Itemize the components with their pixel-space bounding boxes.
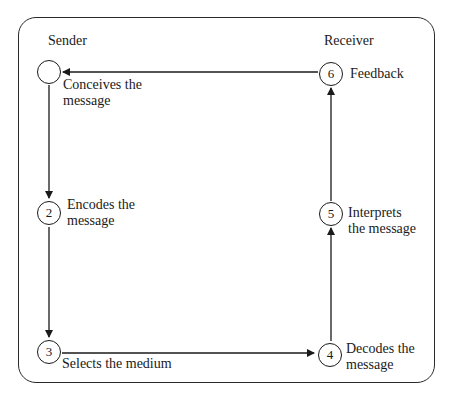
- node-6-circle: 6: [319, 62, 343, 86]
- node-4-label-line1: Decodes the: [346, 341, 415, 357]
- node-2-circle: 2: [37, 201, 61, 225]
- node-4-label-line2: message: [346, 357, 415, 373]
- node-4-label: Decodes the message: [346, 341, 415, 373]
- node-6-label-line1: Feedback: [350, 66, 404, 82]
- node-1-label-line1: Conceives the: [63, 77, 142, 93]
- node-3-label-line1: Selects the medium: [62, 356, 172, 372]
- node-1-circle: [37, 60, 61, 84]
- node-2-label-line1: Encodes the: [67, 197, 135, 213]
- node-1-label: Conceives the message: [63, 77, 142, 109]
- receiver-heading: Receiver: [324, 33, 374, 49]
- node-3-circle: 3: [37, 340, 61, 364]
- node-5-circle: 5: [319, 202, 343, 226]
- node-1-label-line2: message: [63, 93, 142, 109]
- node-4-circle: 4: [318, 343, 342, 367]
- node-5-label: Interprets the message: [348, 205, 416, 237]
- node-3-label: Selects the medium: [62, 356, 172, 372]
- sender-heading: Sender: [48, 33, 87, 49]
- node-5-label-line1: Interprets: [348, 205, 416, 221]
- node-2-label-line2: message: [67, 213, 135, 229]
- node-2-label: Encodes the message: [67, 197, 135, 229]
- node-5-label-line2: the message: [348, 221, 416, 237]
- node-6-label: Feedback: [350, 66, 404, 82]
